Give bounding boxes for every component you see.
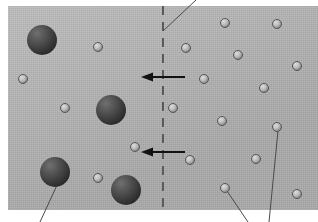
small-particle <box>19 75 28 84</box>
leader-lines-group <box>40 0 278 222</box>
small-particle <box>169 104 178 113</box>
diagram-figure <box>0 0 318 222</box>
small-particle <box>221 19 230 28</box>
small-particle <box>234 51 243 60</box>
small-particle <box>94 174 103 183</box>
leader-small-sphere-a <box>227 191 248 222</box>
small-particle <box>260 84 269 93</box>
diagram-vector-layer <box>0 0 318 222</box>
small-particle <box>252 155 261 164</box>
small-particle <box>61 104 70 113</box>
large-particles-group <box>27 25 141 205</box>
small-particle <box>182 44 191 53</box>
small-particle <box>221 184 230 193</box>
small-particle <box>200 75 209 84</box>
small-particle <box>218 117 227 126</box>
small-particle <box>293 190 302 199</box>
leader-small-sphere-b <box>269 131 278 222</box>
small-particle <box>186 156 195 165</box>
large-particle <box>96 95 126 125</box>
flow-arrows-group <box>141 73 185 157</box>
small-particle <box>273 123 282 132</box>
leader-large-sphere <box>40 183 58 222</box>
large-particle <box>40 157 70 187</box>
large-particle <box>111 175 141 205</box>
leader-boundary <box>163 0 196 31</box>
small-particle <box>273 20 282 29</box>
large-particle <box>27 25 57 55</box>
small-particle <box>293 62 302 71</box>
small-particle <box>131 143 140 152</box>
small-particle <box>94 43 103 52</box>
